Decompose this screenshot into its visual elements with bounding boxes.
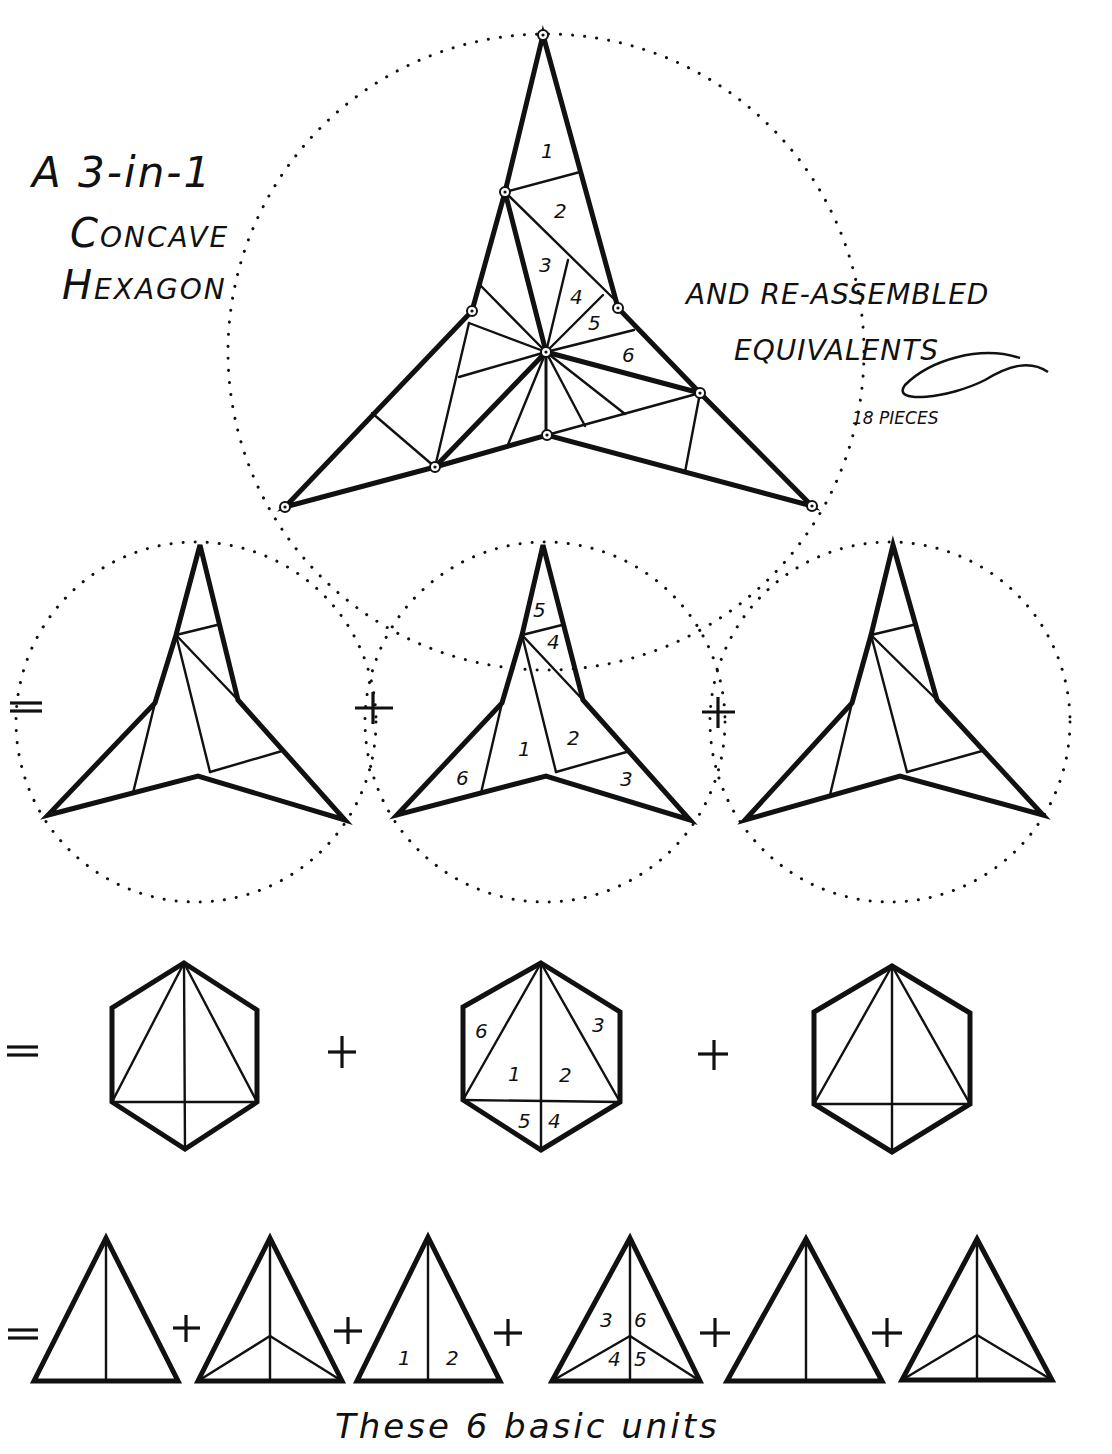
row3-unit-1 <box>34 1238 178 1381</box>
main-label-5: 5 <box>588 311 601 335</box>
row3-unit3-label-1: 1 <box>398 1346 411 1370</box>
row3-unit3-label-2: 2 <box>446 1346 459 1370</box>
row1-plus-1 <box>355 692 393 724</box>
row3-plus-1 <box>173 1315 200 1342</box>
row1-label-5: 5 <box>533 598 546 622</box>
main-label-3: 3 <box>539 253 552 277</box>
row3-plus-3 <box>494 1319 522 1346</box>
row2-label-6: 6 <box>475 1019 488 1043</box>
flourish <box>903 353 1048 397</box>
row1-shape-3 <box>745 545 1043 820</box>
main-label-1: 1 <box>541 139 554 163</box>
row3-basic-units: 1 2 3 6 4 5 <box>8 1237 1052 1381</box>
row3-plus-2 <box>334 1317 362 1344</box>
row2-plus-1 <box>328 1036 356 1068</box>
row1-label-2: 2 <box>567 726 580 750</box>
main-label-2: 2 <box>554 199 567 223</box>
row3-unit-4: 3 6 4 5 <box>552 1238 700 1381</box>
row2-equals <box>7 1047 38 1055</box>
row1-shape-2: 5 4 1 2 6 3 <box>397 545 690 820</box>
row3-unit4-label-3: 3 <box>600 1308 613 1332</box>
main-concave-hexagon: 1 2 3 4 5 6 <box>228 30 1048 670</box>
diagram-canvas: 1 2 3 4 5 6 <box>0 0 1112 1454</box>
row2-hexagon-2: 6 3 1 2 5 4 <box>463 963 620 1150</box>
row3-unit-5 <box>727 1239 882 1381</box>
row3-equals <box>8 1330 38 1338</box>
main-label-4: 4 <box>570 285 583 309</box>
row2-label-2: 2 <box>559 1063 572 1087</box>
row2-hexagon-1 <box>112 963 257 1149</box>
row1-label-6: 6 <box>456 766 469 790</box>
row3-unit4-label-5: 5 <box>634 1347 647 1371</box>
row3-plus-4 <box>700 1318 730 1347</box>
row2-label-3: 3 <box>592 1013 605 1037</box>
row2-hexagon-3 <box>814 966 970 1152</box>
row1-shape-1 <box>48 545 345 820</box>
row2-label-4: 4 <box>548 1109 561 1133</box>
row3-unit-6 <box>902 1239 1052 1380</box>
row3-unit4-label-6: 6 <box>634 1308 647 1332</box>
row2-label-5: 5 <box>518 1109 531 1133</box>
row1-plus-2 <box>702 697 735 728</box>
row3-plus-5 <box>872 1318 902 1347</box>
row3-unit-3: 1 2 <box>357 1237 500 1381</box>
row3-unit-2 <box>198 1238 342 1381</box>
row1-equivalents: 5 4 1 2 6 3 <box>10 542 1070 902</box>
row2-hexagons: 6 3 1 2 5 4 <box>7 963 970 1152</box>
row1-equals <box>10 703 42 711</box>
row1-label-3: 3 <box>620 767 633 791</box>
caption-line-1: These 6 basic units <box>335 1406 720 1446</box>
row2-label-1: 1 <box>508 1062 521 1086</box>
main-label-6: 6 <box>622 343 635 367</box>
row1-label-4: 4 <box>547 630 560 654</box>
row3-unit4-label-4: 4 <box>608 1347 621 1371</box>
row2-plus-2 <box>698 1040 728 1070</box>
row1-label-1: 1 <box>518 737 531 761</box>
